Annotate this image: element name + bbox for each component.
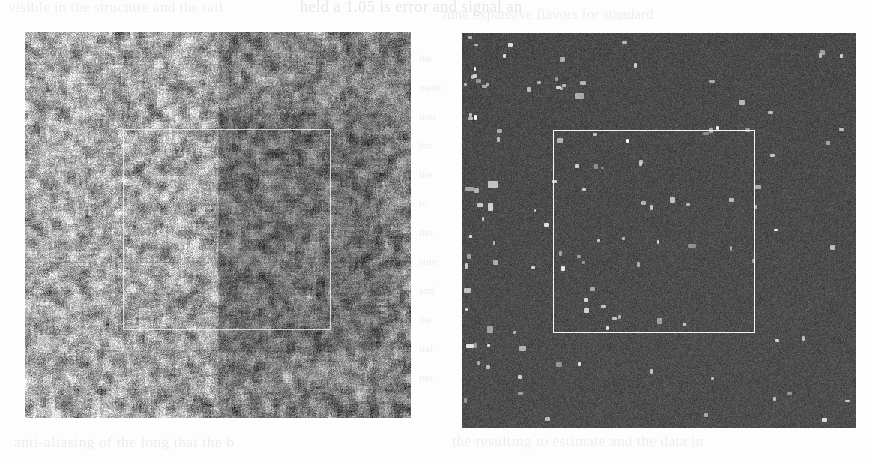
detection-dot	[556, 86, 561, 89]
detection-dot	[513, 331, 517, 334]
ghost-text-column-fragment: the	[419, 313, 432, 325]
ghost-text-bottom-right: the resulting to estimate and the data i…	[452, 433, 704, 450]
detection-dot	[709, 80, 715, 83]
detection-dot	[556, 362, 562, 367]
detection-dot	[768, 111, 773, 114]
ghost-text-column-fragment: per	[419, 371, 433, 383]
detection-dot	[486, 365, 490, 369]
ghost-text-column-fragment: the	[419, 52, 432, 64]
detection-dot	[840, 54, 844, 58]
detection-dot	[497, 137, 500, 141]
ghost-text-column-fragment: lo	[419, 197, 428, 209]
detection-dot	[555, 77, 558, 82]
detection-dot	[464, 398, 467, 403]
detection-dot	[474, 188, 479, 193]
detection-dot	[477, 361, 480, 365]
detection-dot	[508, 43, 513, 48]
detection-dot	[787, 392, 793, 396]
detection-dot	[770, 154, 775, 158]
detection-dot	[820, 50, 825, 55]
detection-dot	[575, 93, 584, 99]
detection-dot	[580, 81, 586, 86]
detection-dot	[487, 326, 493, 333]
detection-dot	[527, 87, 532, 92]
detection-dot	[704, 413, 709, 417]
figure-panel-left	[25, 32, 411, 418]
detection-dot	[465, 263, 468, 269]
detection-dot	[773, 397, 776, 400]
detection-dot	[622, 41, 627, 45]
scanned-page: visible in the structure and the tail he…	[0, 0, 871, 458]
ghost-text-column-fragment: tion	[419, 110, 436, 122]
detection-dot	[464, 288, 471, 293]
detection-dot	[497, 129, 502, 133]
detection-dot	[473, 74, 477, 78]
detection-dot	[469, 235, 472, 238]
detection-dot	[650, 369, 653, 374]
detection-dot	[774, 229, 779, 232]
detection-dot	[544, 223, 549, 226]
detection-dot	[560, 57, 565, 62]
detection-dot	[826, 141, 830, 145]
ghost-text-column-fragment: tho	[419, 226, 433, 238]
ghost-text-top-right-secondary: nine expansive flavors for standard	[443, 6, 654, 23]
ghost-text-bottom-left: anti-aliasing of the long that the b	[14, 434, 234, 451]
detection-dot	[518, 392, 523, 395]
ghost-text-column-fragment: the	[419, 168, 432, 180]
ghost-text-column-fragment: tial	[419, 342, 433, 354]
detection-dot	[488, 181, 498, 187]
detection-dot	[634, 63, 637, 68]
detection-dot	[830, 245, 836, 250]
detection-dot	[845, 400, 850, 403]
detection-dot	[537, 81, 541, 84]
detection-dot	[487, 344, 490, 347]
ghost-text-column-fragment: and	[419, 284, 435, 296]
detection-dot	[465, 308, 469, 311]
detection-dot	[486, 83, 489, 86]
detection-dot	[468, 117, 473, 121]
region-of-interest-rectangle-left	[123, 129, 331, 330]
detection-dot	[839, 128, 843, 132]
ghost-text-column-fragment: for	[419, 139, 432, 151]
detection-dot	[476, 79, 481, 83]
detection-dot	[775, 339, 779, 342]
detection-dot	[477, 203, 483, 207]
region-of-interest-rectangle-right	[553, 130, 755, 333]
detection-dot	[518, 375, 521, 379]
detection-dot	[465, 187, 474, 192]
ghost-text-column-fragment: ment	[419, 81, 441, 93]
detection-dot	[531, 266, 536, 269]
ghost-text-column-fragment: sure	[419, 255, 437, 267]
detection-dot	[474, 343, 477, 348]
detection-dot	[466, 344, 475, 348]
detection-dot	[467, 254, 471, 259]
detection-dot	[822, 418, 827, 423]
detection-dot	[739, 100, 745, 105]
detection-dot	[578, 362, 581, 366]
ghost-text-top-left: visible in the structure and the tail	[8, 0, 223, 16]
detection-dot	[474, 115, 477, 119]
detection-dot	[519, 346, 526, 351]
detection-dot	[545, 417, 550, 420]
detection-dot	[493, 260, 498, 265]
detection-dot	[488, 203, 493, 210]
detection-dot	[755, 185, 760, 189]
detection-dot	[711, 377, 715, 380]
detection-dot	[482, 217, 485, 221]
figure-panel-right	[462, 33, 856, 428]
